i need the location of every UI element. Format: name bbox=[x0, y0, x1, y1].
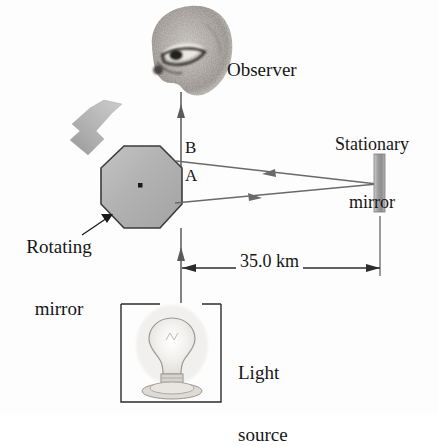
label-stationary-line2: mirror bbox=[310, 193, 434, 212]
label-stationary-mirror: Stationary mirror bbox=[310, 96, 434, 252]
label-rotating-line1: Rotating bbox=[4, 237, 114, 258]
octagon-center-dot bbox=[138, 183, 143, 188]
ray-from-source bbox=[177, 228, 185, 303]
label-ray-b: B bbox=[185, 139, 196, 157]
label-stationary-line1: Stationary bbox=[310, 135, 434, 154]
rotation-arrow bbox=[70, 100, 122, 155]
dimension-arrow-right bbox=[366, 264, 380, 272]
label-light-source: Light source bbox=[238, 322, 288, 445]
label-rotating-line2: mirror bbox=[4, 299, 114, 320]
label-light-source-line1: Light bbox=[238, 363, 288, 384]
label-ray-a: A bbox=[185, 167, 197, 185]
light-source-box bbox=[121, 304, 221, 402]
label-observer: Observer bbox=[227, 60, 297, 81]
label-light-source-line2: source bbox=[238, 425, 288, 445]
dimension-arrow-left bbox=[182, 264, 196, 272]
label-distance: 35.0 km bbox=[236, 252, 303, 271]
observer-photo bbox=[152, 6, 232, 96]
label-rotating-mirror: Rotating mirror bbox=[4, 196, 114, 360]
